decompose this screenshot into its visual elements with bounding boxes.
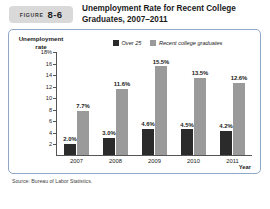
bar-group: 2.0%7.7% [60,52,94,155]
bar-over-25[interactable]: 4.6% [142,129,154,155]
source-note: Source: Bureau of Labor Statistics. [12,178,92,184]
bar-over-25[interactable]: 4.5% [181,129,193,155]
legend-swatch-over-25 [113,40,119,46]
y-tick-label: 2 [49,141,52,147]
figure-badge: FIGURE 8-6 [9,6,73,23]
bar-value-label: 4.2% [219,123,232,129]
bar-group-container: 2.0%7.7%3.0%11.6%4.6%15.5%4.5%13.5%4.2%1… [57,52,252,155]
bar-group: 3.0%11.6% [99,52,133,155]
x-tick-label: 2008 [99,158,133,164]
bar-recent-grads[interactable]: 15.5% [155,66,167,155]
bar-recent-grads[interactable]: 12.6% [233,83,245,155]
bar-group: 4.6%15.5% [138,52,172,155]
bar-over-25[interactable]: 4.2% [220,131,232,155]
x-axis-title: Year [239,164,251,170]
y-tick-label: 14 [46,72,52,78]
y-tick-label: 10 [46,95,52,101]
x-tick-label: 2009 [138,158,172,164]
bar-value-label: 3.0% [102,130,115,136]
bar-value-label: 11.6% [114,81,130,87]
x-tick-label: 2010 [177,158,211,164]
page-title: Unemployment Rate for Recent College Gra… [82,4,262,25]
bar-value-label: 13.5% [192,70,209,76]
legend-label-recent-grads: Recent college graduates [159,40,222,46]
bar-recent-grads[interactable]: 13.5% [194,78,206,155]
x-axis-labels: 20072008200920102011 [57,158,252,164]
figure-label-word: FIGURE [20,12,44,18]
y-axis-title: Unemployment rate [15,35,67,50]
legend-item-recent-grads: Recent college graduates [150,40,222,46]
y-tick-label: 18% [41,49,52,55]
legend-label-over-25: Over 25 [122,40,142,46]
x-axis-line [56,155,252,156]
figure-header: FIGURE 8-6 Unemployment Rate for Recent … [0,0,270,30]
bar-value-label: 4.5% [180,122,193,128]
y-tick-label: 4 [49,130,52,136]
legend-item-over-25: Over 25 [113,40,141,46]
legend-swatch-recent-grads [150,40,156,46]
bar-group: 4.2%12.6% [216,52,250,155]
bar-value-label: 15.5% [153,59,170,65]
bar-value-label: 2.0% [63,136,76,142]
bar-value-label: 12.6% [231,75,248,81]
x-tick-label: 2007 [60,158,94,164]
bar-group: 4.5%13.5% [177,52,211,155]
y-tick-label: 6 [49,118,52,124]
bar-value-label: 4.6% [141,121,154,127]
chart-panel: Unemployment rate Over 25 Recent college… [8,29,261,174]
plot-area: 24681012141618% 2.0%7.7%3.0%11.6%4.6%15.… [56,52,252,156]
bar-over-25[interactable]: 2.0% [64,144,76,155]
bar-over-25[interactable]: 3.0% [103,138,115,155]
chart-legend: Over 25 Recent college graduates [113,40,222,46]
y-tick-label: 12 [46,84,52,90]
bar-recent-grads[interactable]: 7.7% [77,111,89,155]
figure-number: 8-6 [48,9,63,20]
bar-recent-grads[interactable]: 11.6% [116,89,128,155]
y-tick-label: 16 [46,61,52,67]
y-tick-label: 8 [49,107,52,113]
bar-value-label: 7.7% [76,103,89,109]
